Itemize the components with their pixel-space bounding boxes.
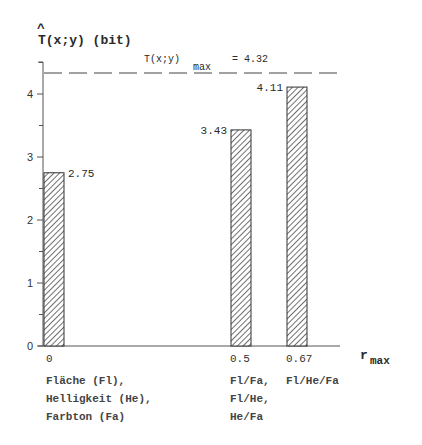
x-tick-label: 0 [46,353,53,365]
category-description: Helligkeit (He), [46,393,152,405]
svg-text:= 4.32: = 4.32 [232,54,268,65]
bar-chart: ^ T(x;y) (bit) T(x;y) max = 4.32 2.753.4… [0,0,422,445]
category-description: Fl/He, [230,393,270,405]
x-tick-label: 0.67 [286,353,312,365]
category-description: Fl/He/Fa [286,375,339,387]
y-tick-label: 3 [27,151,33,163]
y-tick-label: 0 [27,340,33,352]
y-axis-title: T(x;y) (bit) [38,33,132,48]
y-axis [37,62,43,346]
category-description: Fläche (Fl), [46,375,125,387]
svg-text:r: r [360,348,368,363]
svg-text:T(x;y): T(x;y) [144,54,180,65]
bar-0: 2.75 [44,168,94,346]
x-tick-label: 0.5 [230,353,250,365]
y-tick-label: 1 [27,277,33,289]
bar-value-label: 3.43 [201,125,227,137]
bar-value-label: 2.75 [68,168,94,180]
bar-value-label: 4.11 [257,82,284,94]
category-description: He/Fa [230,411,263,423]
reference-line-label: T(x;y) max = 4.32 [144,54,268,73]
svg-text:max: max [193,62,211,73]
x-axis-label: r max [360,348,390,367]
category-description: Fl/Fa, [230,375,270,387]
y-tick-label: 4 [27,88,33,100]
y-tick-labels: 01234 [27,88,33,352]
svg-text:max: max [370,355,390,367]
x-category-labels: 0Fläche (Fl),Helligkeit (He),Farbton (Fa… [46,353,339,423]
bar-0.5: 3.43 [201,125,251,346]
y-tick-label: 2 [27,214,33,226]
bar-0.67: 4.11 [257,82,307,346]
category-description: Farbton (Fa) [46,411,125,423]
bars-group: 2.753.434.11 [44,82,307,346]
